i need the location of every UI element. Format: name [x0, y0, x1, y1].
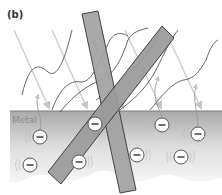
metal-label: Metal	[12, 115, 37, 125]
electron	[191, 127, 205, 141]
electron	[72, 155, 86, 169]
electron	[88, 117, 102, 131]
electron	[33, 130, 47, 144]
electron	[155, 118, 169, 132]
photoelectric-diagram	[0, 0, 222, 195]
electron	[23, 158, 37, 172]
electron	[174, 150, 188, 164]
panel-label: (b)	[7, 9, 23, 20]
electron	[130, 148, 144, 162]
